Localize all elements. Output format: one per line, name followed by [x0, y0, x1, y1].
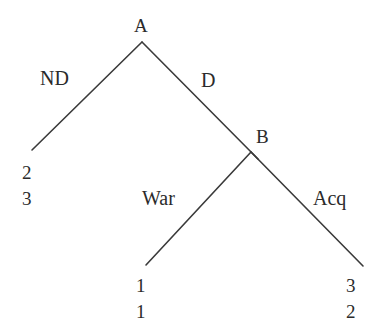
payoff-value: 2	[346, 301, 356, 323]
edge-line-nd	[32, 42, 142, 150]
edge-line-acq	[251, 152, 363, 266]
action-label-nd: ND	[40, 68, 69, 88]
edge-line-d	[142, 42, 258, 159]
node-label-a: A	[134, 16, 148, 35]
node-label-b: B	[256, 127, 269, 146]
payoff-value: 1	[136, 275, 146, 297]
payoff-value: 3	[22, 188, 32, 210]
payoff-value: 3	[346, 275, 356, 297]
tree-edges-layer	[0, 0, 381, 335]
payoff-value: 2	[22, 162, 32, 184]
game-tree-figure: A B ND D War Acq 2 3 1 1 3 2	[0, 0, 381, 335]
payoff-value: 1	[136, 301, 146, 323]
action-label-d: D	[201, 70, 215, 90]
action-label-war: War	[142, 188, 175, 208]
action-label-acq: Acq	[313, 188, 346, 208]
